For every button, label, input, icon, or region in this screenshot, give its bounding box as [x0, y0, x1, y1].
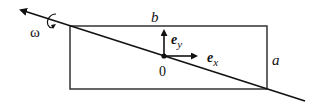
omega-label: ω	[30, 24, 40, 40]
diagram-canvas: ω b a ey ex 0	[0, 0, 314, 108]
ex-label: ex	[207, 50, 218, 68]
side-a-label: a	[272, 52, 280, 68]
origin-label: 0	[159, 64, 166, 79]
side-b-label: b	[151, 9, 159, 25]
ey-label: ey	[171, 32, 182, 50]
